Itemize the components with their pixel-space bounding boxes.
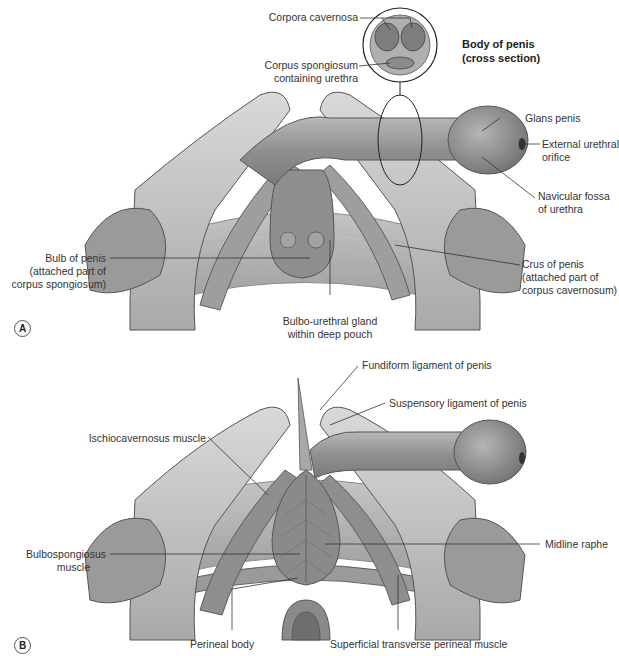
label-bulbospongiosus: Bulbospongiosus xyxy=(0,548,106,561)
label-bulb-of-penis-line3: corpus spongiosum) xyxy=(0,278,106,291)
label-corpus-spongiosum: Corpus spongiosum xyxy=(238,59,358,72)
label-crus-of-penis: Crus of penis xyxy=(522,258,584,271)
label-suspensory-ligament: Suspensory ligament of penis xyxy=(389,397,527,410)
label-bulbourethral-gland-line2: within deep pouch xyxy=(270,328,390,341)
label-corpora-cavernosa: Corpora cavernosa xyxy=(238,11,358,24)
label-bulbospongiosus-line2: muscle xyxy=(0,561,90,574)
label-external-urethral-orifice-line2: orifice xyxy=(542,151,570,164)
inset-subtitle: (cross section) xyxy=(462,52,540,65)
label-midline-raphe: Midline raphe xyxy=(545,538,608,551)
label-fundiform-ligament: Fundiform ligament of penis xyxy=(362,359,492,372)
label-corpus-spongiosum-line2: containing urethra xyxy=(238,72,358,85)
panel-marker-b: B xyxy=(14,637,31,654)
label-glans-penis: Glans penis xyxy=(525,112,580,125)
label-crus-of-penis-line2: (attached part of xyxy=(522,271,598,284)
label-external-urethral-orifice: External urethral xyxy=(542,138,619,151)
label-navicular-fossa: Navicular fossa xyxy=(538,190,610,203)
label-superficial-transverse-perineal: Superficial transverse perineal muscle xyxy=(330,638,507,651)
label-perineal-body: Perineal body xyxy=(190,638,254,651)
label-ischiocavernosus: Ischiocavernosus muscle xyxy=(60,432,206,445)
label-crus-of-penis-line3: corpus cavernosum) xyxy=(522,284,617,297)
label-bulbourethral-gland: Bulbo-urethral gland xyxy=(270,315,390,328)
label-navicular-fossa-line2: of urethra xyxy=(538,203,583,216)
label-bulb-of-penis-line2: (attached part of xyxy=(0,265,106,278)
panel-marker-a: A xyxy=(14,320,31,337)
label-bulb-of-penis: Bulb of penis xyxy=(0,252,106,265)
inset-title: Body of penis xyxy=(462,38,535,51)
panel-b-drawing xyxy=(85,378,526,640)
